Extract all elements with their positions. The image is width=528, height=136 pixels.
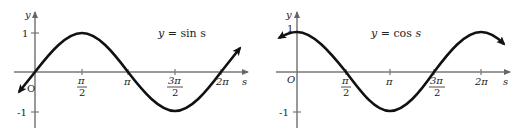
svg-text:π: π [77, 75, 85, 86]
svg-text:3π: 3π [430, 75, 443, 86]
x-tick-2pi: 2π [215, 76, 229, 87]
x-axis-label: s [242, 76, 247, 87]
sine-equation: y = sin s [157, 27, 206, 40]
cosine-chart: y s O 1 -1 π 2 π 3π 2 2π y = cos s [276, 9, 510, 128]
x-tick-2pi: 2π [474, 76, 488, 87]
svg-text:2: 2 [434, 87, 440, 98]
x-tick-pi-over-2: π 2 [77, 75, 87, 98]
x-tick-3pi-over-2: 3π 2 [429, 75, 445, 98]
y-tick-1: 1 [22, 28, 28, 39]
svg-text:2: 2 [343, 87, 349, 98]
x-tick-3pi-over-2: 3π 2 [167, 75, 183, 98]
y-axis-label: y [285, 9, 292, 20]
y-axis-label: y [24, 9, 31, 20]
svg-text:π: π [341, 75, 349, 86]
x-tick-pi: π [385, 76, 393, 87]
svg-text:2: 2 [79, 87, 85, 98]
x-axis-label: s [503, 76, 508, 87]
sine-chart: y s O 1 -1 π 2 π 3π 2 2π y = sin s [14, 9, 248, 128]
y-tick-minus1: -1 [279, 107, 289, 118]
y-tick-1: 1 [287, 23, 293, 34]
origin-label: O [287, 74, 295, 85]
figure: y s O 1 -1 π 2 π 3π 2 2π y = sin s y s O [0, 0, 528, 136]
y-tick-minus1: -1 [17, 107, 27, 118]
origin-label: O [27, 83, 35, 94]
svg-text:3π: 3π [168, 75, 181, 86]
svg-text:2: 2 [172, 87, 178, 98]
cosine-equation: y = cos s [370, 27, 421, 40]
x-tick-pi: π [123, 76, 131, 87]
